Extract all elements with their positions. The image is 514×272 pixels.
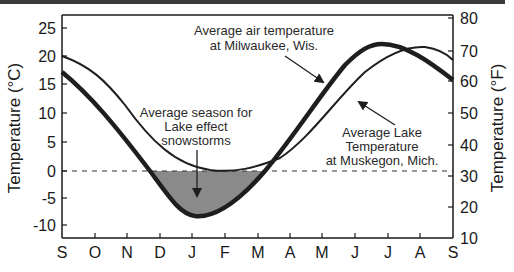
svg-text:M: M [315,244,328,261]
svg-text:D: D [154,244,166,261]
svg-text:Average air temperature: Average air temperature [194,23,334,38]
svg-text:J: J [351,244,359,261]
svg-text:60: 60 [460,73,478,90]
svg-text:Average Lake: Average Lake [342,125,422,140]
chart: 25 20 15 10 5 0 -5 -10 80 70 60 50 40 30… [0,0,514,272]
lake-temperature-arrow [359,102,395,125]
svg-text:O: O [89,244,101,261]
svg-text:Average season for: Average season for [140,105,253,120]
svg-text:20: 20 [38,48,56,65]
svg-text:50: 50 [460,105,478,122]
y-axis-title-right: Temperature (°F) [488,64,507,193]
svg-text:80: 80 [460,10,478,27]
svg-text:-10: -10 [33,217,56,234]
svg-text:20: 20 [460,199,478,216]
right-tick-labels: 80 70 60 50 40 30 20 10 [460,10,478,247]
svg-text:J: J [188,244,196,261]
svg-text:S: S [57,244,68,261]
svg-text:S: S [448,244,459,261]
svg-text:10: 10 [460,230,478,247]
svg-text:0: 0 [47,163,56,180]
svg-text:A: A [415,244,426,261]
svg-text:-5: -5 [42,190,56,207]
month-labels: S O N D J F M A M J J A S [57,244,459,261]
svg-text:F: F [220,244,230,261]
svg-text:at Milwaukee, Wis.: at Milwaukee, Wis. [210,38,318,53]
svg-text:J: J [384,244,392,261]
svg-text:5: 5 [47,134,56,151]
svg-text:25: 25 [38,20,56,37]
svg-text:M: M [251,244,264,261]
svg-text:10: 10 [38,105,56,122]
svg-text:70: 70 [460,43,478,60]
svg-text:N: N [121,244,133,261]
svg-text:30: 30 [460,168,478,185]
y-axis-title-left: Temperature (°C) [5,63,24,194]
lake-temperature-annotation: Average Lake Temperature at Muskegon, Mi… [326,125,439,168]
svg-text:at Muskegon, Mich.: at Muskegon, Mich. [326,153,439,168]
svg-text:snowstorms: snowstorms [161,133,231,148]
left-tick-labels: 25 20 15 10 5 0 -5 -10 [33,20,56,234]
svg-text:Lake effect: Lake effect [164,119,228,134]
svg-text:Temperature: Temperature [346,139,419,154]
air-temperature-arrow [285,56,323,82]
air-temperature-annotation: Average air temperature at Milwaukee, Wi… [194,23,334,53]
svg-text:A: A [285,244,296,261]
svg-text:40: 40 [460,137,478,154]
svg-text:15: 15 [38,76,56,93]
